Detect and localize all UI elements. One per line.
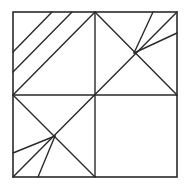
line-ul-stripe-3 <box>13 12 95 95</box>
line-ul-stripe-1 <box>13 12 52 52</box>
line-ur-fan-top <box>134 12 153 53</box>
dissected-square-figure <box>0 0 186 185</box>
line-ur-fan-right <box>134 33 177 53</box>
dissection-lines <box>13 12 177 177</box>
diagram-canvas <box>0 0 186 185</box>
